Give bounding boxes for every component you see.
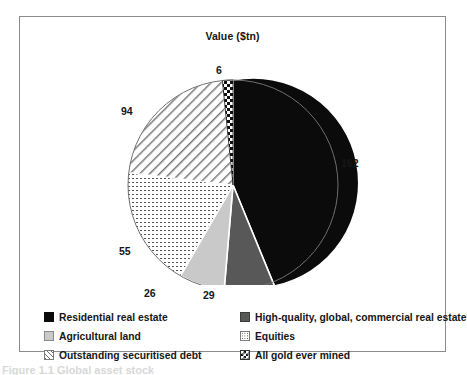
pie-value-label-outstanding-securitised-debt: 94 <box>121 105 133 117</box>
pie-chart-svg <box>20 45 447 285</box>
pie-value-label-agricultural-land: 26 <box>144 287 156 299</box>
diagonal-hatch-swatch-icon <box>44 350 54 360</box>
solid-dark-gray-swatch-icon <box>240 312 250 322</box>
legend-label: High-quality, global, commercial real es… <box>255 312 467 323</box>
legend-row: Agricultural land Equities <box>44 327 462 345</box>
pie-chart <box>20 45 447 285</box>
legend-label: Agricultural land <box>59 331 141 342</box>
pie-slice-outstanding-securitised-debt <box>128 81 233 185</box>
checkered-swatch-icon <box>240 350 250 360</box>
legend-row: Outstanding securitised debt All gold ev… <box>44 346 462 364</box>
dotted-swatch-icon <box>240 331 250 341</box>
chart-panel: Value ($tn) <box>19 16 446 352</box>
chart-title: Value ($tn) <box>20 30 445 42</box>
legend-item-high-quality-global-commercial-real-estate: High-quality, global, commercial real es… <box>240 308 467 326</box>
figure-caption: Figure 1.1 Global asset stock <box>2 364 154 375</box>
pie-value-label-high-quality-commercial-real-estate: 29 <box>203 289 215 301</box>
legend-item-residential-real-estate: Residential real estate <box>44 308 168 326</box>
legend-label: Outstanding securitised debt <box>59 350 201 361</box>
legend-row: Residential real estate High-quality, gl… <box>44 308 462 326</box>
legend-item-equities: Equities <box>240 327 295 345</box>
legend-item-all-gold-ever-mined: All gold ever mined <box>240 346 350 364</box>
pie-value-label-equities: 55 <box>119 245 131 257</box>
solid-light-gray-swatch-icon <box>44 331 54 341</box>
legend-item-outstanding-securitised-debt: Outstanding securitised debt <box>44 346 201 364</box>
legend-label: All gold ever mined <box>255 350 350 361</box>
chart-legend: Residential real estate High-quality, gl… <box>44 308 462 364</box>
legend-item-agricultural-land: Agricultural land <box>44 327 141 345</box>
legend-label: Equities <box>255 331 295 342</box>
pie-value-label-residential-real-estate: 162 <box>341 157 359 169</box>
legend-label: Residential real estate <box>59 312 168 323</box>
solid-black-swatch-icon <box>44 312 54 322</box>
pie-value-label-all-gold-ever-mined: 6 <box>216 64 222 76</box>
